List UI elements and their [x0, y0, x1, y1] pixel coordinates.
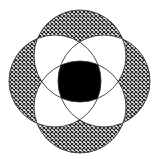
four-circle-diagram — [0, 0, 160, 159]
